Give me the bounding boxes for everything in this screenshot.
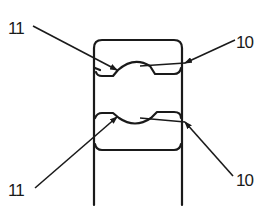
leader-lower-left: [35, 117, 117, 188]
label-11-upper: 11: [8, 20, 24, 37]
bearing-drawing: [0, 0, 274, 216]
label-10-upper: 10: [236, 34, 253, 51]
leader-upper-left: [33, 26, 117, 70]
leader-lower-right: [185, 122, 233, 176]
lower-race-groove: [95, 112, 181, 124]
bearing-diagram: 11 10 11 10: [0, 0, 274, 216]
upper-race-chamfer: [95, 68, 100, 70]
label-11-lower: 11: [8, 182, 24, 199]
lower-race-bottom: [95, 144, 181, 150]
label-10-lower: 10: [236, 172, 253, 189]
leader-upper-right: [185, 40, 235, 63]
